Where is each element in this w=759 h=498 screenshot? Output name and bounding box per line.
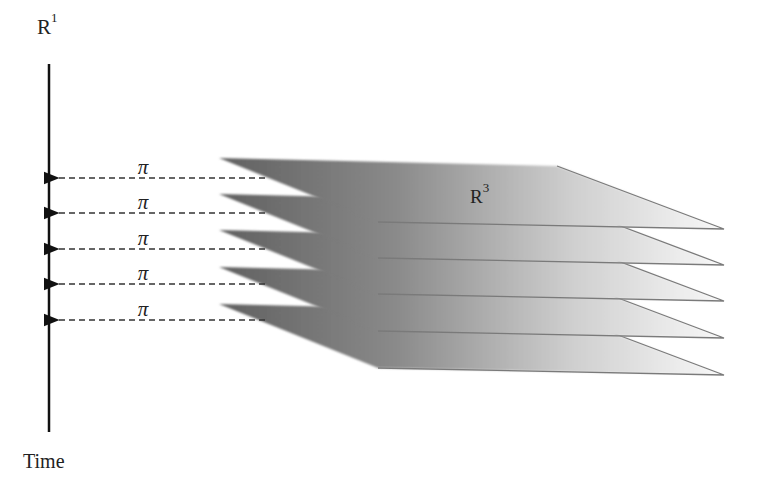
projection-label-1: π	[128, 157, 158, 178]
space-label-r3: R3	[470, 184, 489, 208]
projection-label-3: π	[128, 228, 158, 249]
time-caption: Time	[23, 450, 65, 473]
projection-label-4: π	[128, 263, 158, 284]
space-label-superscript: 3	[483, 180, 490, 195]
diagram-canvas	[0, 0, 759, 498]
axis-label-superscript: 1	[51, 10, 58, 25]
space-label-base: R	[470, 186, 483, 207]
projection-label-2: π	[128, 192, 158, 213]
axis-label-base: R	[37, 15, 51, 39]
projection-label-5: π	[128, 299, 158, 320]
axis-label-r1: R1	[37, 14, 58, 40]
